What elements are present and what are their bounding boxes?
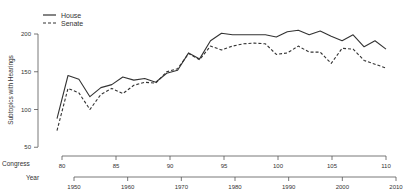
congress-tick-label: 100 <box>273 163 284 169</box>
y-tick-label: 50 <box>24 144 31 150</box>
y-tick-label: 200 <box>21 31 32 37</box>
year-tick-label: 1960 <box>121 184 135 190</box>
year-tick-label: 1990 <box>282 184 296 190</box>
year-tick-label: 2000 <box>336 184 350 190</box>
line-chart: House Senate 50100150200 Subtopics with … <box>0 0 414 194</box>
congress-tick-label: 80 <box>59 163 66 169</box>
y-tick-label: 150 <box>21 69 32 75</box>
congress-tick-label: 90 <box>167 163 174 169</box>
congress-axis: 80859095100105110 Congress <box>2 156 391 169</box>
year-tick-label: 1950 <box>67 184 81 190</box>
y-axis: 50100150200 Subtopics with Hearings <box>7 31 38 150</box>
congress-tick-label: 110 <box>381 163 391 169</box>
senate-series-line <box>57 43 386 131</box>
congress-tick-label: 105 <box>327 163 338 169</box>
year-tick-label: 2010 <box>389 184 403 190</box>
year-axis: 1950196019701980199020002010 Year <box>26 174 403 190</box>
congress-axis-label: Congress <box>2 160 31 168</box>
congress-tick-label: 85 <box>113 163 120 169</box>
legend-senate-label: Senate <box>61 20 83 27</box>
house-series-line <box>57 30 386 118</box>
congress-tick-label: 95 <box>221 163 228 169</box>
y-tick-label: 100 <box>21 107 32 113</box>
year-tick-label: 1980 <box>228 184 242 190</box>
legend-house-label: House <box>61 12 81 19</box>
year-tick-label: 1970 <box>175 184 189 190</box>
legend: House Senate <box>43 12 83 27</box>
y-axis-label: Subtopics with Hearings <box>7 54 15 124</box>
year-axis-label: Year <box>26 174 40 181</box>
